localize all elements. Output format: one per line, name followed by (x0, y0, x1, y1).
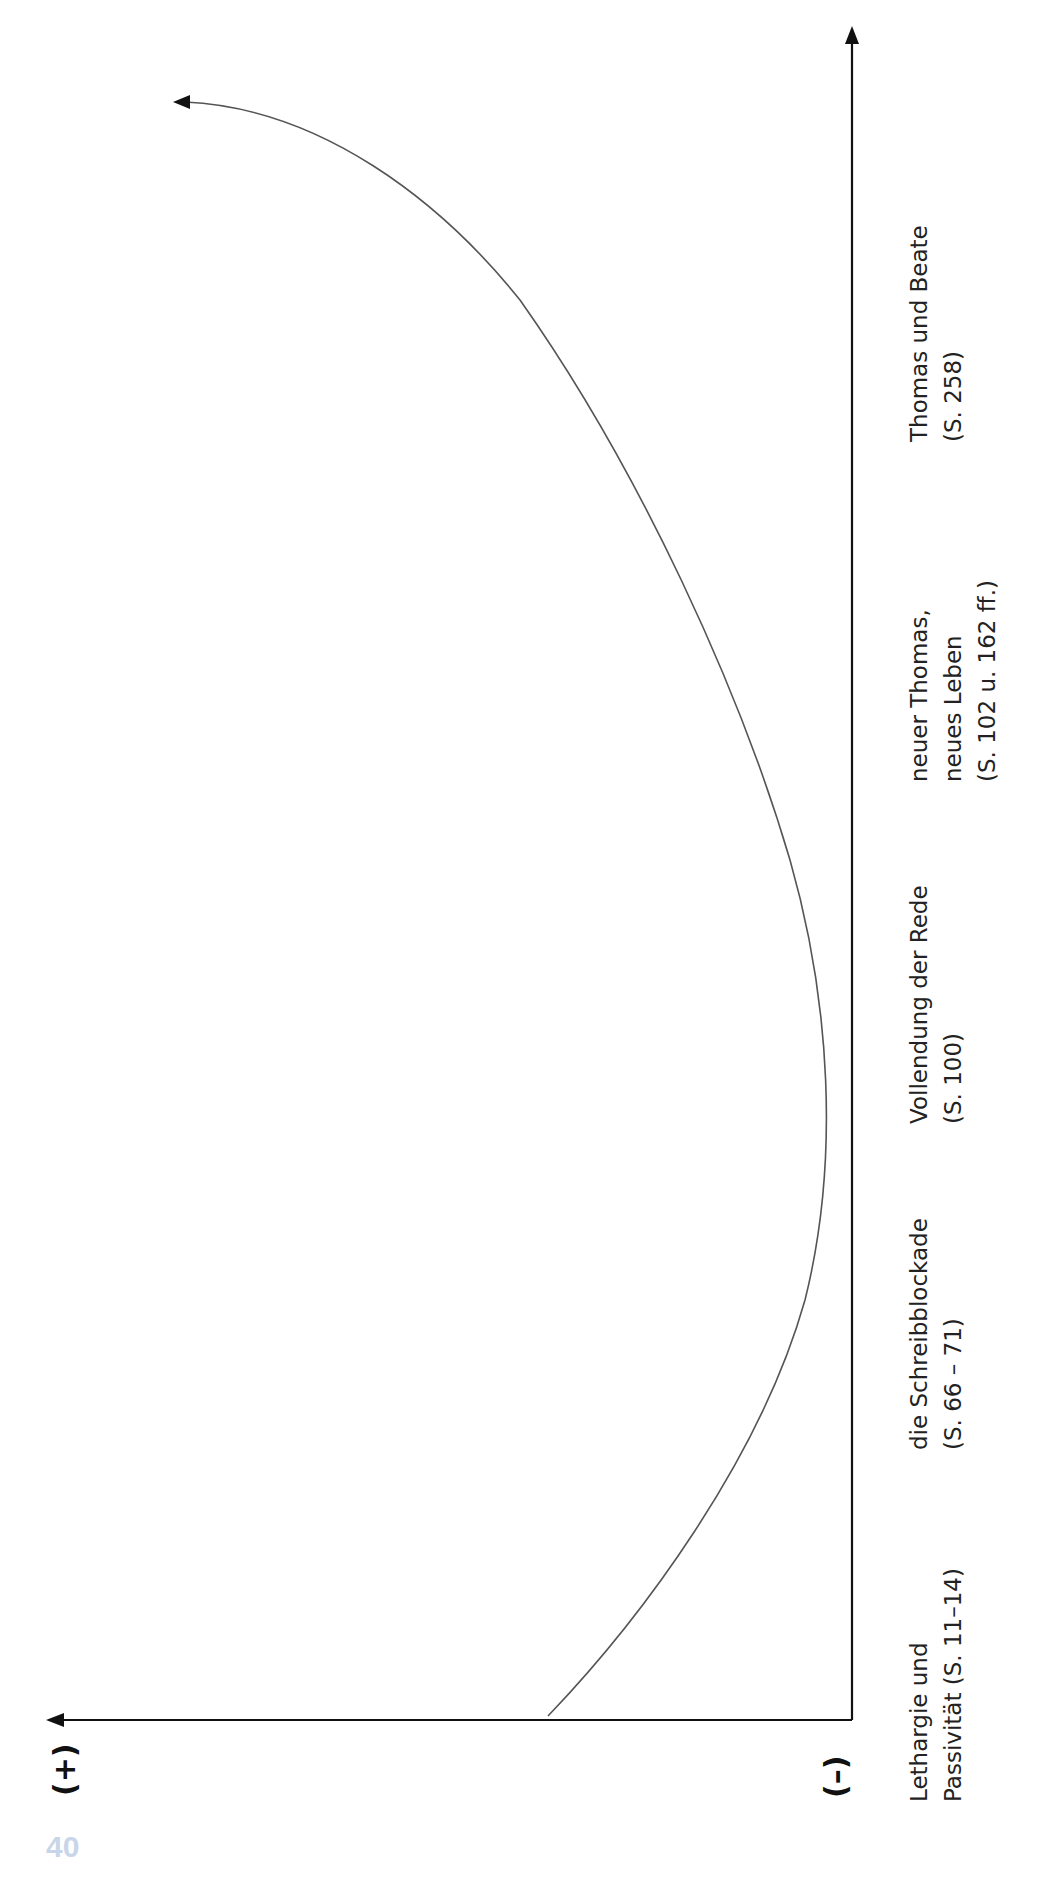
stage-label-schreibblockade: die Schreibblockade (S. 66 – 71) (902, 1218, 970, 1450)
development-curve (185, 102, 826, 1716)
stage-label-lethargie: Lethargie und Passivität (S. 11–14) (902, 1568, 970, 1802)
stage-label-thomas-beate: Thomas und Beate (S. 258) (902, 225, 970, 442)
stage-label-line: Vollendung der Rede (902, 885, 936, 1124)
stage-label-neuer-thomas: neuer Thomas, neues Leben (S. 102 u. 162… (902, 580, 1004, 782)
stage-label-line: die Schreibblockade (902, 1218, 936, 1450)
stage-label-line: (S. 66 – 71) (936, 1218, 970, 1450)
stage-label-line: (S. 258) (936, 225, 970, 442)
positive-pole-label: (+) (47, 1743, 83, 1796)
stage-label-vollendung: Vollendung der Rede (S. 100) (902, 885, 970, 1124)
curve-arrow-icon (173, 95, 190, 109)
development-diagram (0, 0, 1043, 1897)
stage-label-line: neuer Thomas, (902, 580, 936, 782)
stage-label-line: Thomas und Beate (902, 225, 936, 442)
stage-label-line: (S. 102 u. 162 ff.) (970, 580, 1004, 782)
page-number: 40 (46, 1830, 79, 1864)
stage-label-line: (S. 100) (936, 885, 970, 1124)
stage-label-line: Passivität (S. 11–14) (936, 1568, 970, 1802)
stage-label-line: neues Leben (936, 580, 970, 782)
stage-label-line: Lethargie und (902, 1568, 936, 1802)
value-axis-arrow-icon (46, 1713, 64, 1727)
negative-pole-label: (–) (818, 1756, 854, 1798)
time-axis-arrow-icon (845, 26, 859, 44)
